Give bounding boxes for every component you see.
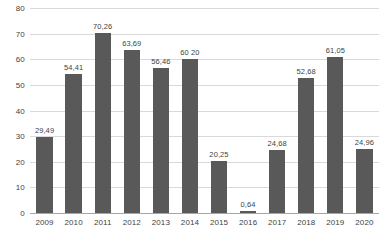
y-tick-label: 0 [20, 209, 25, 218]
bar[interactable]: 61,05 [327, 57, 343, 213]
x-tick-label: 2015 [204, 215, 233, 231]
bar-value-label: 29,49 [35, 126, 54, 135]
bar-value-label: 70,26 [93, 22, 112, 31]
bar-slot: 24,68 [263, 8, 292, 213]
y-tick-label: 50 [16, 80, 25, 89]
bar[interactable]: 20,25 [211, 161, 227, 213]
x-tick-label: 2010 [59, 215, 88, 231]
y-tick-label: 80 [16, 4, 25, 13]
bar[interactable]: 24,96 [356, 149, 372, 213]
bar-slot: 63,69 [117, 8, 146, 213]
y-tick-label: 70 [16, 29, 25, 38]
bar-value-label: 24,68 [268, 139, 287, 148]
bar-slot: 0,64 [234, 8, 263, 213]
x-tick-label: 2013 [146, 215, 175, 231]
x-tick-label: 2016 [234, 215, 263, 231]
bar-slot: 52,68 [292, 8, 321, 213]
bar-value-label: 0,64 [241, 200, 256, 209]
bar-value-label: 56,46 [151, 57, 170, 66]
bar-slot: 20,25 [204, 8, 233, 213]
bar[interactable]: 52,68 [298, 78, 314, 213]
x-tick-label: 2011 [88, 215, 117, 231]
axis-baseline [30, 213, 379, 214]
bar-slot: 70,26 [88, 8, 117, 213]
bar[interactable]: 70,26 [95, 33, 111, 213]
bar[interactable]: 54,41 [65, 74, 81, 213]
bar-slot: 24,96 [350, 8, 379, 213]
x-tick-label: 2009 [30, 215, 59, 231]
bar-value-label: 60 20 [180, 48, 199, 57]
bar[interactable]: 0,64 [240, 211, 256, 213]
bar-slot: 29,49 [30, 8, 59, 213]
plot-area: 0 10 20 30 40 50 60 70 [30, 8, 379, 213]
bar[interactable]: 24,68 [269, 150, 285, 213]
bar-value-label: 61,05 [326, 46, 345, 55]
y-tick-label: 60 [16, 55, 25, 64]
bar[interactable]: 29,49 [36, 137, 52, 213]
bar[interactable]: 60 20 [182, 59, 198, 213]
y-tick-label: 40 [16, 106, 25, 115]
bar-value-label: 63,69 [122, 39, 141, 48]
x-tick-label: 2014 [175, 215, 204, 231]
bar-slot: 56,46 [146, 8, 175, 213]
bar[interactable]: 63,69 [124, 50, 140, 213]
bar[interactable]: 56,46 [153, 68, 169, 213]
x-tick-label: 2020 [350, 215, 379, 231]
bar-slot: 60 20 [175, 8, 204, 213]
x-tick-label: 2012 [117, 215, 146, 231]
y-tick-label: 30 [16, 132, 25, 141]
bar-slot: 61,05 [321, 8, 350, 213]
x-axis: 2009 2010 2011 2012 2013 2014 2015 2016 … [30, 215, 379, 231]
bar-value-label: 20,25 [209, 150, 228, 159]
bars-layer: 29,49 54,41 70,26 63,69 56,46 [30, 8, 379, 213]
bar-value-label: 54,41 [64, 63, 83, 72]
bar-value-label: 52,68 [297, 67, 316, 76]
bar-slot: 54,41 [59, 8, 88, 213]
x-tick-label: 2017 [263, 215, 292, 231]
y-tick-label: 10 [16, 183, 25, 192]
x-tick-label: 2019 [321, 215, 350, 231]
bar-chart: 0 10 20 30 40 50 60 70 [0, 0, 385, 235]
y-tick-label: 20 [16, 157, 25, 166]
bar-value-label: 24,96 [355, 138, 374, 147]
x-tick-label: 2018 [292, 215, 321, 231]
